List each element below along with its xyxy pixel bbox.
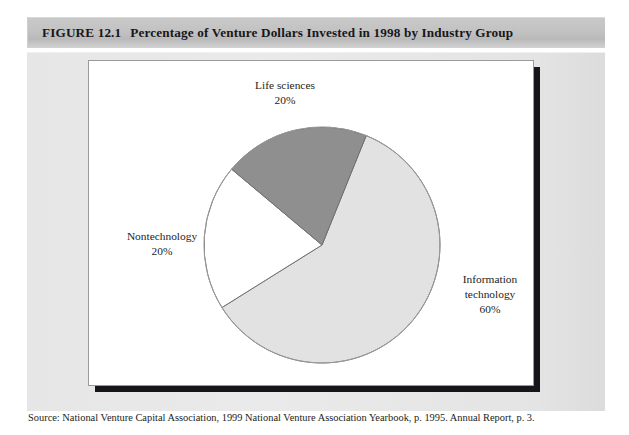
pie-label-information-technology-value: 60% [437,302,543,317]
source-note: Source: National Venture Capital Associa… [28,412,535,423]
pie-label-information-technology: Information technology 60% [437,272,543,317]
figure-number: FIGURE 12.1 [42,25,121,40]
pie-label-life-sciences-name: Life sciences [205,78,365,93]
pie-label-nontechnology: Nontechnology 20% [98,229,226,259]
pie-label-life-sciences-value: 20% [205,93,365,108]
figure-container: FIGURE 12.1Percentage of Venture Dollars… [0,0,629,435]
pie-label-nontechnology-value: 20% [98,244,226,259]
pie-label-life-sciences: Life sciences 20% [205,78,365,108]
plot-panel [88,60,534,386]
figure-title-label: Percentage of Venture Dollars Invested i… [130,25,513,40]
pie-label-information-technology-name-line2: technology [437,287,543,302]
pie-label-information-technology-name-line1: Information [437,272,543,287]
page-title: FIGURE 12.1Percentage of Venture Dollars… [42,25,513,41]
figure-title-band: FIGURE 12.1Percentage of Venture Dollars… [27,17,605,48]
pie-label-nontechnology-name: Nontechnology [98,229,226,244]
